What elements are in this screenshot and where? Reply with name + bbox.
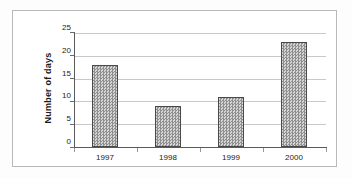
x-tick-mark: [326, 148, 327, 152]
x-tick-mark: [74, 148, 75, 152]
y-axis-line: [74, 32, 75, 148]
y-axis-tick-labels: 25 20 15 10 5 0: [53, 28, 71, 148]
y-tick-label: 5: [53, 115, 71, 123]
x-tick-label: 1997: [75, 153, 135, 163]
plot-area: [74, 33, 326, 147]
plot-inner: [74, 33, 326, 147]
x-tick-label: 1998: [138, 153, 198, 163]
x-tick-label: 1999: [201, 153, 261, 163]
x-tick-mark: [200, 148, 201, 152]
bar-1999: [218, 97, 244, 147]
bar-1997: [92, 65, 118, 147]
x-tick-mark: [137, 148, 138, 152]
x-axis-tick-labels: 1997 1998 1999 2000: [74, 153, 327, 165]
y-tick-label: 20: [53, 47, 71, 55]
bar-2000: [281, 42, 307, 147]
page-background: Number of days 25 20 15 10 5 0: [0, 0, 352, 179]
chart-frame: Number of days 25 20 15 10 5 0: [12, 10, 337, 167]
x-tick-mark: [263, 148, 264, 152]
y-tick-label: 0: [53, 138, 71, 146]
x-tick-label: 2000: [264, 153, 324, 163]
bar-1998: [155, 106, 181, 147]
y-tick-label: 10: [53, 92, 71, 100]
y-tick-label: 15: [53, 70, 71, 78]
y-tick-label: 25: [53, 24, 71, 32]
gridline: [74, 33, 326, 34]
